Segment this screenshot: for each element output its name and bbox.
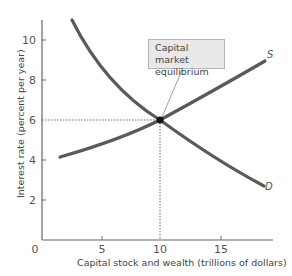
y-axis-label: Interest rate (percent per year): [15, 49, 26, 198]
y-tick-10: 10: [22, 34, 36, 47]
equilibrium-callout: Capital market equilibrium: [148, 39, 225, 69]
y-tick-8: 8: [29, 74, 36, 87]
y-tick-4: 4: [29, 154, 36, 167]
y-tick-2: 2: [29, 194, 36, 207]
equilibrium-point: [157, 117, 164, 124]
supply-label: S: [267, 49, 274, 60]
x-axis-label: Capital stock and wealth (trillions of d…: [77, 257, 287, 268]
y-tick-6: 6: [29, 114, 36, 127]
chart: 10 8 6 4 2 0 5 10 15 Capital stock and w…: [0, 0, 292, 276]
x-tick-10: 10: [153, 243, 167, 256]
callout-line-2: equilibrium: [155, 66, 224, 78]
x-tick-15: 15: [214, 243, 228, 256]
x-tick-0: 0: [32, 243, 39, 256]
x-tick-5: 5: [99, 243, 106, 256]
demand-label: D: [265, 181, 273, 192]
callout-line-1: Capital market: [155, 42, 224, 66]
